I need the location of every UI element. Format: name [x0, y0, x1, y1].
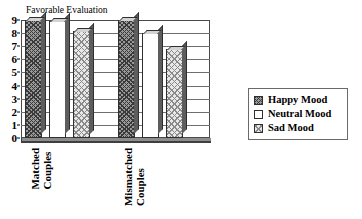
chart-figure: Favorable Evaluation 0123456789 MatchedC… — [0, 0, 230, 219]
y-axis-tick-label: 3 — [3, 93, 17, 104]
y-axis-tick-label: 5 — [3, 67, 17, 78]
y-axis-tick-mark — [17, 85, 20, 86]
legend-label: Neutral Mood — [268, 109, 331, 120]
y-axis-tick-label: 7 — [3, 41, 17, 52]
x-axis-category-label-line: Couples — [135, 148, 147, 206]
y-axis-tick-mark — [17, 20, 20, 21]
bar-side-face — [89, 23, 94, 135]
bar-side-face — [134, 12, 139, 134]
y-axis-tick-label: 8 — [3, 28, 17, 39]
y-axis-tick-mark — [17, 111, 20, 112]
legend-swatch — [254, 110, 263, 119]
bar — [73, 31, 90, 139]
y-axis-tick-mark — [17, 72, 20, 73]
legend-item: Sad Mood — [254, 121, 342, 135]
y-axis-tick-label: 9 — [3, 15, 17, 26]
bar — [25, 20, 42, 138]
bar-side-face — [41, 12, 46, 134]
bar — [166, 49, 183, 138]
bar — [49, 21, 66, 138]
x-axis-category-label: MismatchedCouples — [123, 148, 146, 206]
y-axis-tick-mark — [17, 46, 20, 47]
legend-swatch — [254, 124, 263, 133]
legend: Happy MoodNeutral MoodSad Mood — [248, 88, 348, 140]
legend-label: Sad Mood — [268, 123, 314, 134]
y-axis-tick-label: 0 — [3, 133, 17, 144]
y-axis-tick-label: 1 — [3, 119, 17, 130]
y-axis-tick-mark — [17, 59, 20, 60]
plot-area — [21, 20, 210, 138]
y-axis-tick-mark — [17, 98, 20, 99]
y-axis-tick-mark — [17, 138, 20, 139]
legend-label: Happy Mood — [268, 95, 327, 106]
y-axis-tick-label: 2 — [3, 106, 17, 117]
legend-swatch — [254, 96, 263, 105]
y-axis-tick-mark — [17, 33, 20, 34]
bar — [118, 20, 135, 138]
legend-item: Happy Mood — [254, 93, 342, 107]
x-axis-category-label-line: Couples — [42, 148, 54, 190]
bar-side-face — [65, 13, 70, 134]
x-axis-category-label: MatchedCouples — [30, 148, 53, 190]
y-axis-tick-label: 6 — [3, 54, 17, 65]
y-axis: 0123456789 — [0, 0, 17, 219]
chart-title: Favorable Evaluation — [26, 5, 108, 15]
chart-floor-edge — [21, 141, 211, 143]
legend-item: Neutral Mood — [254, 107, 342, 121]
y-axis-tick-label: 4 — [3, 80, 17, 91]
bar — [142, 33, 159, 138]
bar-side-face — [158, 25, 163, 134]
bar-side-face — [182, 41, 187, 134]
y-axis-tick-mark — [17, 124, 20, 125]
